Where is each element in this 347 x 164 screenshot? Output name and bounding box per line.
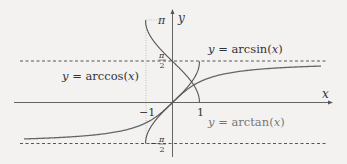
y-axis-arrow-icon	[171, 9, 175, 14]
tick-label-pi: π	[157, 14, 166, 27]
tick-label-1: 1	[197, 106, 204, 119]
tick-label-neg-pi-half-num: π	[158, 135, 165, 144]
arccos-annotation: y = arccos(x)	[61, 69, 139, 83]
x-axis-label: x	[322, 87, 329, 101]
arcsin-annotation: y = arcsin(x)	[207, 42, 283, 56]
tick-label-neg-pi-half-sign: −	[150, 138, 158, 148]
arctan-annotation: y = arctan(x)	[207, 115, 285, 129]
tick-label-neg1: −1	[139, 106, 155, 119]
inverse-trig-chart: x y π π 2 − π 2 −1 1 y = arcsin(x) y = a…	[0, 0, 347, 164]
tick-label-pi-half-den: 2	[160, 61, 165, 70]
tick-label-neg-pi-half-den: 2	[160, 145, 165, 154]
y-axis-label: y	[177, 11, 185, 25]
tick-label-pi-half-num: π	[158, 51, 165, 60]
x-axis-arrow-icon	[328, 101, 333, 105]
